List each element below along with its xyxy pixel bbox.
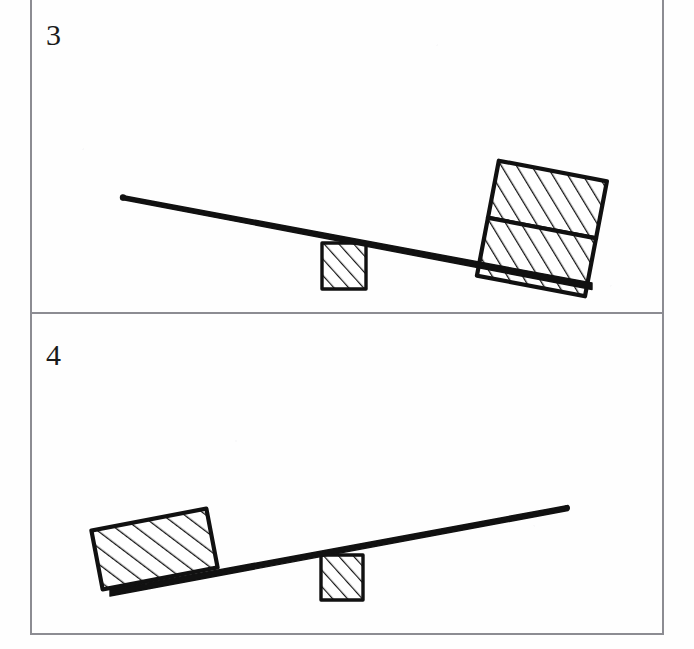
figure-sheet: 3 4 bbox=[0, 0, 694, 649]
lever-figure bbox=[0, 0, 694, 649]
panel-3-number: 3 bbox=[46, 20, 61, 50]
panel-3-fulcrum-block bbox=[322, 243, 366, 289]
panel-4-number: 4 bbox=[46, 340, 61, 370]
panel-4 bbox=[91, 505, 570, 600]
panel-4-lever-right-tip bbox=[564, 505, 570, 511]
panel-3-lever-left-tip bbox=[120, 194, 126, 200]
panel-3 bbox=[120, 161, 607, 297]
panel-4-fulcrum-block bbox=[321, 555, 363, 600]
